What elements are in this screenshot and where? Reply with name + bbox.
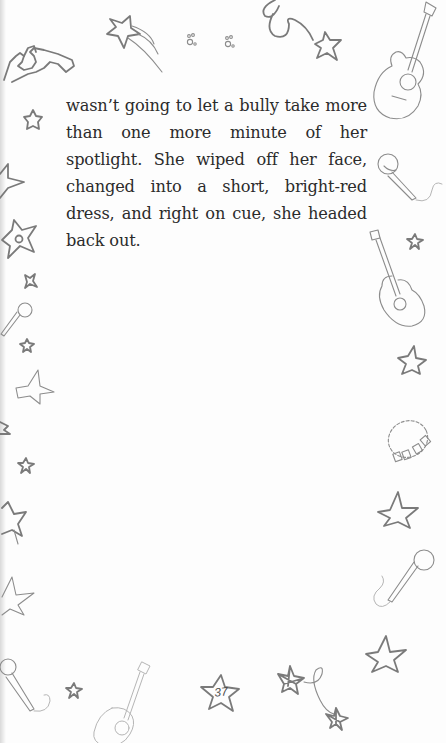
body-paragraph: wasn’t going to let a bully take more th…	[66, 92, 367, 254]
star-icon	[396, 344, 428, 376]
microphone-icon	[368, 546, 438, 616]
swirl-star-icon	[255, 0, 355, 72]
star-icon	[364, 634, 408, 676]
star-icon	[17, 457, 35, 475]
star-icon	[0, 575, 36, 617]
star-icon	[406, 233, 424, 251]
star-icon	[65, 682, 83, 700]
book-page: 37 wasn’t going to let a bully take more…	[0, 0, 446, 743]
star-icon	[22, 109, 44, 131]
shooting-star-icon	[104, 14, 174, 76]
guitar-icon	[84, 656, 156, 743]
star-icon	[0, 218, 40, 260]
microphone-icon	[0, 655, 60, 717]
star-icon	[0, 420, 16, 438]
star-icon	[376, 490, 420, 530]
star-icon	[0, 500, 30, 546]
star-icon	[22, 272, 38, 290]
microphone-icon	[0, 300, 36, 340]
guitar-icon	[366, 0, 446, 125]
star-icon	[0, 160, 28, 200]
bead-bracelet-icon	[384, 415, 434, 467]
paw-print-icon	[186, 33, 200, 47]
linked-stars-icon	[274, 664, 354, 736]
page-number-label: 37	[198, 683, 243, 702]
star-icon	[19, 338, 35, 354]
star-icon	[14, 368, 56, 406]
heart-hands-icon	[0, 20, 80, 85]
paw-print-icon	[224, 35, 238, 49]
page-number: 37	[199, 673, 243, 715]
microphone-icon	[376, 152, 446, 208]
